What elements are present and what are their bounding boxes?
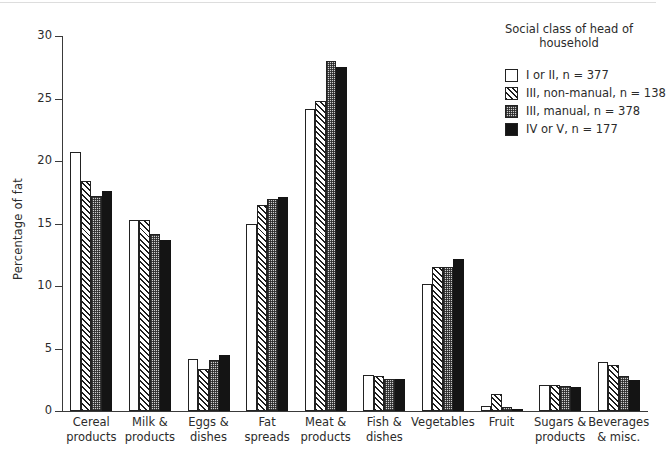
bar <box>395 379 406 412</box>
bar-group <box>70 36 112 411</box>
bar <box>102 191 113 411</box>
y-axis-tick: 10 <box>0 286 62 287</box>
bar <box>550 385 561 411</box>
bar <box>629 380 640 411</box>
y-axis-tick: 5 <box>0 349 62 350</box>
bar <box>326 61 337 411</box>
legend: Social class of head of household I or I… <box>505 8 655 141</box>
bar <box>81 181 92 411</box>
bar <box>209 360 220 411</box>
bar-group <box>422 36 464 411</box>
y-axis-tick-label: 20 <box>22 155 52 167</box>
y-axis-tick-label: 5 <box>22 343 52 355</box>
legend-item-label: I or II, n = 377 <box>526 69 609 82</box>
bar <box>571 387 582 411</box>
legend-swatch-icon <box>505 105 518 118</box>
legend-item: III, manual, n = 378 <box>505 105 655 118</box>
legend-title-line-2: household <box>505 36 655 50</box>
y-axis-tick: 0 <box>0 411 62 412</box>
y-axis-tick: 20 <box>0 161 62 162</box>
bar <box>453 259 464 412</box>
bar <box>384 379 395 412</box>
bar <box>608 365 619 411</box>
legend-swatch-icon <box>505 69 518 82</box>
y-axis-tick-mark <box>55 36 62 37</box>
y-axis-tick-mark <box>55 286 62 287</box>
y-axis-tick: 30 <box>0 36 62 37</box>
x-axis-labels: Cereal productsMilk & productsEggs & dis… <box>62 415 648 458</box>
y-axis-tick-label: 15 <box>22 218 52 230</box>
y-axis-tick-label: 30 <box>22 30 52 42</box>
bar <box>512 409 523 412</box>
bar <box>336 67 347 411</box>
legend-entries: I or II, n = 377III, non-manual, n = 138… <box>505 69 655 136</box>
legend-title-line-1: Social class of head of <box>505 22 633 36</box>
y-axis-tick-mark <box>55 411 62 412</box>
legend-item: I or II, n = 377 <box>505 69 655 82</box>
bar <box>129 220 140 411</box>
bar <box>374 376 385 411</box>
legend-item-label: III, manual, n = 378 <box>526 105 640 118</box>
bar <box>363 375 374 411</box>
bar <box>502 407 513 411</box>
legend-swatch-icon <box>505 87 518 100</box>
y-axis-title: Percentage of fat <box>11 149 25 309</box>
y-axis-tick-mark <box>55 161 62 162</box>
y-axis-tick-mark <box>55 224 62 225</box>
bar <box>91 196 102 411</box>
legend-swatch-icon <box>505 123 518 136</box>
bar-group <box>129 36 171 411</box>
bar <box>267 199 278 412</box>
y-axis-tick: 15 <box>0 224 62 225</box>
bar <box>422 284 433 412</box>
bar <box>160 240 171 411</box>
x-axis-line <box>62 411 648 412</box>
bar <box>150 234 161 412</box>
bar <box>315 101 326 411</box>
bar <box>491 394 502 412</box>
bar <box>278 197 289 411</box>
legend-item-label: IV or V, n = 177 <box>526 123 618 136</box>
legend-item-label: III, non-manual, n = 138 <box>526 87 666 100</box>
bar <box>70 152 81 411</box>
y-axis-tick-label: 0 <box>22 405 52 417</box>
y-axis-tick-mark <box>55 99 62 100</box>
bar <box>481 406 492 411</box>
bar <box>246 224 257 412</box>
bar <box>257 205 268 411</box>
bar <box>219 355 230 411</box>
bar <box>198 369 209 412</box>
legend-title: Social class of head of household <box>505 8 655 64</box>
x-axis-label: Beverages & misc. <box>581 415 656 444</box>
bar-group <box>305 36 347 411</box>
bar <box>139 220 150 411</box>
bar <box>305 109 316 412</box>
bar <box>432 267 443 411</box>
y-axis-tick-mark <box>55 349 62 350</box>
bar-group <box>246 36 288 411</box>
bar-group <box>188 36 230 411</box>
legend-item: III, non-manual, n = 138 <box>505 87 655 100</box>
y-axis-tick: 25 <box>0 99 62 100</box>
bar <box>598 362 609 411</box>
bar <box>539 385 550 411</box>
bar-group <box>363 36 405 411</box>
bar <box>188 359 199 412</box>
bar <box>560 386 571 411</box>
y-axis-tick-label: 10 <box>22 280 52 292</box>
scan-artifact-line <box>0 2 656 3</box>
bar <box>443 267 454 411</box>
y-axis-tick-label: 25 <box>22 93 52 105</box>
legend-item: IV or V, n = 177 <box>505 123 655 136</box>
bar <box>619 376 630 411</box>
